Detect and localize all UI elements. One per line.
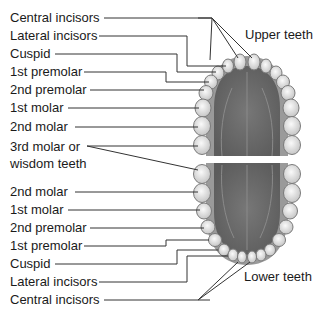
label-lower-1st-premolar: 1st premolar bbox=[10, 238, 82, 253]
lower-teeth-title: Lower teeth bbox=[244, 269, 312, 284]
label-lower-central-incisors: Central incisors bbox=[10, 292, 100, 307]
label-upper-lateral-incisors: Lateral incisors bbox=[10, 28, 97, 43]
upper-arch bbox=[194, 54, 301, 158]
jaw-divider bbox=[196, 156, 300, 163]
label-lower-2nd-molar: 2nd molar bbox=[10, 184, 68, 199]
label-lower-cuspid: Cuspid bbox=[10, 256, 50, 271]
label-lower-1st-molar: 1st molar bbox=[10, 202, 63, 217]
label-upper-1st-premolar: 1st premolar bbox=[10, 64, 82, 79]
label-upper-central-incisors: Central incisors bbox=[10, 10, 100, 25]
label-upper-cuspid: Cuspid bbox=[10, 46, 50, 61]
teeth-diagram: Central incisors Lateral incisors Cuspid… bbox=[0, 0, 319, 311]
label-wisdom-line1: 3rd molar or bbox=[10, 139, 80, 154]
upper-teeth-title: Upper teeth bbox=[245, 27, 313, 42]
label-lower-2nd-premolar: 2nd premolar bbox=[10, 220, 87, 235]
label-wisdom-line2: wisdom teeth bbox=[10, 156, 87, 171]
label-upper-1st-molar: 1st molar bbox=[10, 100, 63, 115]
label-upper-2nd-molar: 2nd molar bbox=[10, 119, 68, 134]
label-upper-2nd-premolar: 2nd premolar bbox=[10, 82, 87, 97]
label-lower-lateral-incisors: Lateral incisors bbox=[10, 274, 97, 289]
